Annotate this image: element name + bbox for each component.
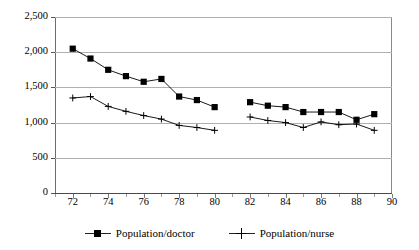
x-tickmark-minor-73	[90, 194, 91, 197]
y-axis-label: 1,000	[2, 117, 48, 127]
data-point-marker-plus	[105, 103, 112, 110]
legend-item[interactable]: Population/doctor	[85, 227, 195, 239]
data-point-marker-plus	[335, 121, 342, 128]
data-point-marker-plus	[87, 93, 94, 100]
x-tickmark-minor-79	[197, 194, 198, 197]
chart-container: 05001,0001,5002,0002,500 727476788082848…	[0, 0, 419, 250]
x-axis-label: 72	[61, 196, 85, 207]
data-point-marker-square	[194, 97, 200, 103]
y-axis-label: 0	[2, 187, 48, 197]
data-point-marker-plus	[300, 124, 307, 131]
data-point-marker-plus	[123, 108, 130, 115]
x-tickmark-minor-87	[339, 194, 340, 197]
y-axis-label: 500	[2, 152, 48, 162]
y-axis-label: 2,500	[2, 11, 48, 21]
x-axis-label: 90	[380, 196, 404, 207]
data-point-marker-square	[123, 73, 129, 79]
x-tickmark-minor-89	[374, 194, 375, 197]
data-point-marker-square	[87, 55, 93, 61]
x-tickmark-minor-71	[55, 194, 56, 197]
data-point-marker-square	[212, 104, 218, 110]
x-tickmark-minor-77	[161, 194, 162, 197]
series-nurse	[69, 93, 377, 134]
data-point-marker-plus	[158, 116, 165, 123]
plot-area	[55, 17, 392, 193]
data-point-marker-plus	[264, 117, 271, 124]
y-axis-label: 1,500	[2, 81, 48, 91]
x-axis-label: 86	[309, 196, 333, 207]
x-axis-label: 88	[345, 196, 369, 207]
x-tickmark-minor-83	[268, 194, 269, 197]
data-point-marker-square	[70, 46, 76, 52]
data-point-marker-plus	[247, 114, 254, 121]
chart-legend: Population/doctorPopulation/nurse	[0, 222, 419, 244]
legend-label: Population/doctor	[116, 227, 195, 239]
data-point-marker-square	[318, 109, 324, 115]
data-point-marker-plus	[140, 112, 147, 119]
legend-plus-marker-icon	[229, 227, 255, 239]
data-point-marker-square	[282, 104, 288, 110]
x-axis-label: 78	[167, 196, 191, 207]
x-axis-label: 80	[203, 196, 227, 207]
data-point-marker-square	[247, 99, 253, 105]
data-point-marker-plus	[176, 122, 183, 129]
data-point-marker-square	[141, 79, 147, 85]
data-point-marker-plus	[193, 124, 200, 131]
data-point-marker-square	[105, 67, 111, 73]
x-tickmark-minor-75	[126, 194, 127, 197]
x-tickmark-minor-81	[232, 194, 233, 197]
legend-square-marker-icon	[85, 227, 111, 239]
data-point-marker-square	[371, 111, 377, 117]
x-axis-label: 84	[274, 196, 298, 207]
data-point-marker-square	[158, 76, 164, 82]
legend-item[interactable]: Population/nurse	[229, 227, 335, 239]
data-point-marker-square	[336, 109, 342, 115]
data-series-layer	[55, 17, 392, 194]
y-axis-label: 2,000	[2, 46, 48, 56]
x-tickmark-minor-85	[303, 194, 304, 197]
data-point-marker-square	[300, 109, 306, 115]
x-axis-label: 76	[132, 196, 156, 207]
data-point-marker-plus	[371, 127, 378, 134]
data-point-marker-plus	[318, 119, 325, 126]
data-point-marker-plus	[69, 95, 76, 102]
data-point-marker-square	[265, 103, 271, 109]
data-point-marker-plus	[282, 119, 289, 126]
x-axis-label: 82	[238, 196, 262, 207]
data-point-marker-square	[176, 93, 182, 99]
legend-label: Population/nurse	[260, 227, 335, 239]
x-axis-label: 74	[96, 196, 120, 207]
data-point-marker-plus	[211, 127, 218, 134]
series-doctor	[70, 46, 378, 123]
